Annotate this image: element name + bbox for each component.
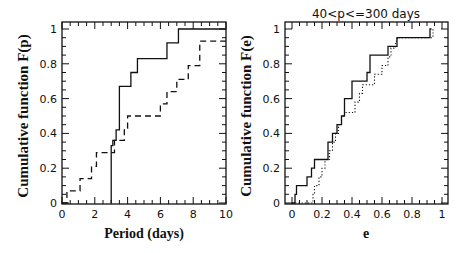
left-series	[62, 29, 226, 203]
right-x-tick-labels: 00.20.40.60.81	[289, 208, 446, 221]
y-tick-label: 0	[273, 197, 280, 210]
y-tick-label: 0.8	[40, 58, 58, 71]
y-tick-label: 1	[50, 23, 57, 36]
y-tick-label: 0.6	[263, 93, 281, 106]
x-tick-label: 0.6	[373, 208, 391, 221]
series-solid-line	[292, 29, 432, 203]
left-y-axis-label: Cumulative function F(p)	[15, 34, 32, 197]
x-tick-label: 1	[439, 208, 446, 221]
y-tick-label: 0.8	[263, 58, 281, 71]
x-tick-label: 0	[289, 208, 296, 221]
left-x-axis-label: Period (days)	[104, 226, 184, 242]
x-tick-label: 4	[124, 208, 131, 221]
series-dotted-line	[292, 29, 435, 203]
left-y-tick-labels: 00.20.40.60.81	[40, 23, 58, 210]
y-tick-label: 0.2	[263, 162, 281, 175]
y-tick-label: 0.4	[263, 127, 281, 140]
x-tick-label: 2	[91, 208, 98, 221]
series-dashed-line	[62, 41, 226, 203]
x-tick-label: 8	[190, 208, 197, 221]
x-tick-label: 10	[219, 208, 233, 221]
x-tick-label: 0.2	[313, 208, 331, 221]
y-tick-label: 1	[273, 23, 280, 36]
figure: 0246810 00.20.40.60.81 Period (days) Cum…	[0, 0, 467, 253]
x-tick-label: 6	[157, 208, 164, 221]
x-tick-label: 0.4	[343, 208, 361, 221]
y-tick-label: 0	[50, 197, 57, 210]
left-plot-frame	[62, 22, 226, 204]
right-y-tick-labels: 00.20.40.60.81	[263, 23, 281, 210]
right-chart-title: 40<p<=300 days	[312, 7, 420, 21]
x-tick-label: 0.8	[403, 208, 421, 221]
y-tick-label: 0.2	[40, 162, 58, 175]
x-tick-label: 0	[59, 208, 66, 221]
left-x-tick-labels: 0246810	[59, 208, 234, 221]
right-chart-panel: 00.20.40.60.81 00.20.40.60.81 40<p<=300 …	[238, 7, 448, 241]
right-x-axis-label: e	[363, 226, 369, 241]
left-axis-ticks	[62, 22, 226, 204]
y-tick-label: 0.4	[40, 127, 58, 140]
right-y-axis-label: Cumulative function F(e)	[238, 35, 255, 197]
y-tick-label: 0.6	[40, 93, 58, 106]
left-chart-panel: 0246810 00.20.40.60.81 Period (days) Cum…	[15, 22, 233, 242]
right-series	[292, 29, 435, 203]
